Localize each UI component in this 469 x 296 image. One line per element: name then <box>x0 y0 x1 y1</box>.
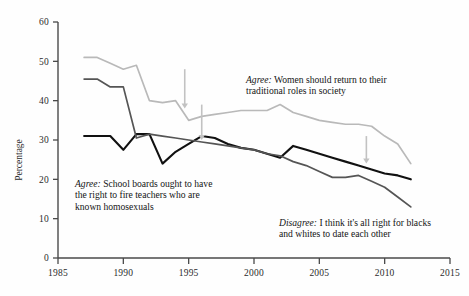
arrow-to-school-line <box>199 105 205 140</box>
y-tick-label: 50 <box>39 57 49 67</box>
annotation-women-emphasis: Agree: <box>246 74 272 85</box>
x-tick-label: 2010 <box>375 268 395 278</box>
annotation-disagree-emphasis: Disagree: <box>279 217 317 228</box>
x-tick-label: 1990 <box>113 268 133 278</box>
arrow-to-women-line <box>182 69 188 108</box>
line-chart-svg: 0102030405060 19851990199520002005201020… <box>0 0 469 296</box>
annotation-interracial-dating: Disagree: I think it's all right for bla… <box>279 205 444 240</box>
y-tick-label: 0 <box>44 253 49 263</box>
arrow-to-school-line-right <box>363 136 369 164</box>
x-tick-label: 1995 <box>179 268 199 278</box>
annotation-women-roles: Agree: Women should return to their trad… <box>246 62 406 97</box>
x-tick-label: 2000 <box>244 268 264 278</box>
y-axis-title: Percentage <box>14 139 24 181</box>
x-tick-label: 2015 <box>440 268 460 278</box>
annotation-school-boards: Agree: School boards ought to have the r… <box>75 166 225 212</box>
y-tick-label: 30 <box>39 135 49 145</box>
x-tick-label: 1985 <box>48 268 68 278</box>
x-axis: 1985199019952000200520102015 <box>48 258 460 278</box>
chart-container: 0102030405060 19851990199520002005201020… <box>0 0 469 296</box>
y-axis: 0102030405060 <box>39 17 58 263</box>
y-tick-label: 10 <box>39 214 49 224</box>
y-tick-label: 40 <box>39 96 49 106</box>
x-tick-label: 2005 <box>309 268 329 278</box>
y-tick-label: 60 <box>39 17 49 27</box>
y-tick-label: 20 <box>39 175 49 185</box>
annotation-school-emphasis: Agree: <box>75 178 101 189</box>
